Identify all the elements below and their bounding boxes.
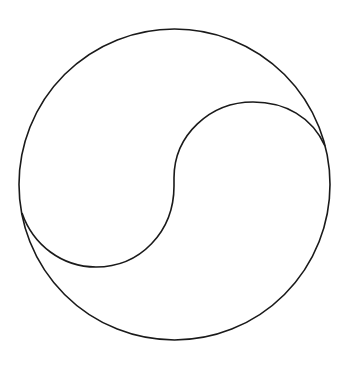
yin-yang-outline-diagram	[0, 0, 349, 366]
s-curve-upper-arc	[174, 102, 325, 178]
diagram-svg	[0, 0, 349, 366]
s-curve-lower-arc	[22, 178, 174, 267]
